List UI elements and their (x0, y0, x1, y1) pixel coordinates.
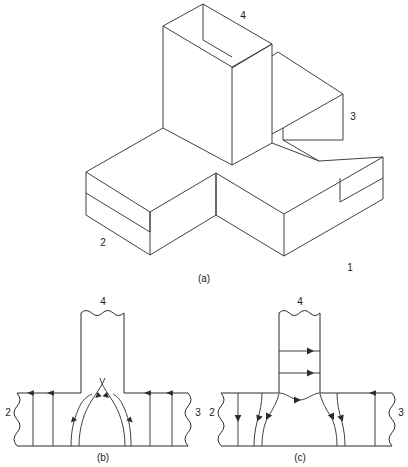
panel-b-label-2: 2 (5, 407, 11, 418)
iso-label-1: 1 (347, 262, 353, 273)
panel-c-duct-outline (218, 311, 395, 447)
panel-c-label-4: 4 (297, 296, 303, 307)
iso-label-4: 4 (240, 10, 246, 21)
run-duct-2 (86, 128, 216, 255)
panel-b-label-4: 4 (100, 296, 106, 307)
panel-b-streamlines-right (100, 378, 172, 446)
duct-junction-figure: 4 3 2 1 (a) (0, 0, 408, 467)
panel-c-streamlines-left (235, 393, 279, 446)
panel-a-caption: (a) (198, 273, 210, 284)
branch-duct-3 (272, 52, 343, 161)
iso-label-2: 2 (100, 237, 106, 248)
iso-label-3: 3 (350, 111, 356, 122)
panel-b-streamlines-left (33, 378, 105, 446)
panel-c-streamlines-right (320, 393, 375, 446)
panel-a-isometric: 4 3 2 1 (a) (86, 4, 383, 284)
panel-c-label-3: 3 (398, 407, 404, 418)
panel-b-caption: (b) (97, 452, 109, 463)
figure-canvas: 4 3 2 1 (a) (0, 0, 408, 467)
panel-b-duct-outline (14, 311, 191, 447)
panel-b-label-3: 3 (195, 407, 201, 418)
riser-duct-4 (163, 4, 272, 165)
panel-c-streamlines-riser (279, 348, 320, 404)
panel-c-label-2: 2 (209, 407, 215, 418)
panel-c-section: 2 3 4 (c) (209, 296, 404, 463)
panel-b-section: 2 3 4 (b) (5, 296, 201, 463)
panel-c-caption: (c) (294, 452, 306, 463)
